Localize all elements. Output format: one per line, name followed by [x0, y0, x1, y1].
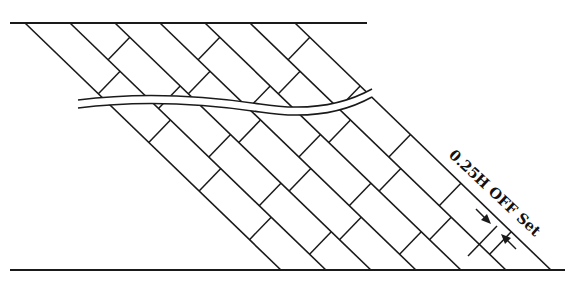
cross-joint-line	[389, 135, 411, 157]
cross-joint-line	[439, 183, 461, 205]
offset-annotation: 0.25H OFF Set	[446, 146, 545, 256]
cross-joint-line	[379, 169, 401, 191]
cross-joint-line	[249, 217, 271, 239]
cross-joint-line	[278, 71, 300, 93]
cross-joint-line	[108, 37, 130, 59]
cross-joint-line	[400, 232, 422, 254]
cross-joint-line	[98, 71, 120, 93]
cross-joint-line	[490, 232, 512, 254]
cross-joint-line	[198, 37, 220, 59]
cross-joint-line	[259, 183, 281, 205]
cross-joint-line	[149, 120, 171, 142]
cross-joint-line	[349, 183, 371, 205]
brick-pattern-diagram: 0.25H OFF Set	[0, 0, 588, 288]
cross-joint-line	[329, 120, 351, 142]
cross-joint-line	[239, 120, 261, 142]
cross-joint-line	[310, 232, 332, 254]
cross-joint-line	[299, 135, 321, 157]
cross-joint-line	[209, 135, 231, 157]
cross-joint-line	[188, 71, 210, 93]
break-line	[78, 89, 372, 115]
cross-joint-line	[199, 169, 221, 191]
cross-joint-line	[339, 217, 361, 239]
diagonal-courses	[25, 23, 551, 270]
cross-joints	[98, 37, 511, 254]
cross-joint-line	[288, 37, 310, 59]
break-line-mask	[78, 89, 372, 115]
cross-joint-line	[429, 217, 451, 239]
cross-joint-line	[289, 169, 311, 191]
